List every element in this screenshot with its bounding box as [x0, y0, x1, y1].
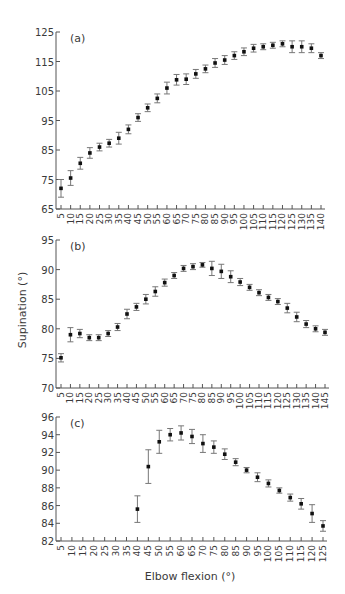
x-tick-label: 20 — [89, 545, 99, 557]
y-tick-label: 95 — [41, 235, 54, 246]
y-tick-label: 125 — [35, 27, 54, 38]
data-point — [58, 180, 64, 198]
x-tick-label: 70 — [198, 545, 208, 557]
data-point — [86, 335, 92, 341]
data-point — [318, 53, 324, 59]
data-point — [255, 473, 261, 482]
x-tick-label: 100 — [239, 213, 249, 230]
x-tick-label: 130 — [297, 213, 307, 230]
data-point — [143, 294, 149, 303]
data-point — [265, 480, 271, 487]
x-tick-label: 25 — [95, 213, 105, 224]
data-point — [77, 157, 83, 169]
data-point — [171, 273, 177, 279]
data-point — [125, 125, 131, 134]
x-tick-label: 65 — [172, 213, 182, 224]
data-point — [145, 450, 151, 484]
x-tick-label: 125 — [318, 545, 328, 562]
x-tick-label: 60 — [162, 213, 172, 225]
data-point — [251, 44, 257, 52]
data-point — [77, 329, 83, 337]
panel-label: (a) — [70, 32, 85, 45]
y-tick-label: 75 — [41, 175, 54, 186]
y-tick-label: 70 — [41, 383, 54, 394]
data-point — [178, 426, 184, 440]
data-point — [67, 328, 73, 342]
x-tick-label: 10 — [66, 213, 76, 225]
data-point — [222, 449, 228, 460]
y-tick-label: 92 — [41, 447, 54, 458]
data-point — [133, 303, 139, 310]
x-tick-label: 55 — [152, 213, 162, 224]
data-point — [287, 494, 293, 501]
data-point — [152, 287, 158, 296]
data-point — [308, 44, 314, 53]
data-point — [294, 312, 300, 321]
data-point — [134, 496, 140, 523]
data-point — [156, 430, 162, 453]
data-point — [209, 261, 215, 275]
x-tick-label: 30 — [111, 545, 121, 557]
data-point — [276, 488, 282, 493]
x-tick-label: 45 — [133, 213, 143, 224]
x-tick-label: 100 — [263, 545, 273, 562]
data-point — [124, 309, 130, 318]
y-tick-label: 115 — [35, 57, 54, 68]
x-tick-label: 45 — [143, 545, 153, 556]
x-tick-label: 30 — [104, 213, 114, 225]
x-tick-label: 25 — [100, 545, 110, 556]
x-tick-label: 70 — [181, 213, 191, 225]
data-point — [154, 94, 160, 103]
x-tick-label: 120 — [307, 545, 317, 562]
x-tick-label: 20 — [85, 213, 95, 225]
x-tick-label: 105 — [274, 545, 284, 562]
x-tick-label: 40 — [123, 213, 133, 225]
data-point — [233, 459, 239, 466]
data-point — [58, 354, 64, 362]
y-tick-label: 90 — [41, 265, 54, 276]
panel-b: 7075808590955101520253035404550556065707… — [41, 235, 330, 409]
data-point — [164, 82, 170, 94]
data-point — [303, 321, 309, 328]
x-tick-label: 135 — [306, 213, 316, 230]
y-tick-label: 96 — [41, 412, 54, 423]
data-point — [241, 48, 247, 56]
data-point — [96, 335, 102, 341]
y-tick-label: 75 — [41, 353, 54, 364]
x-tick-label: 90 — [242, 545, 252, 557]
data-point — [256, 290, 262, 296]
data-point — [174, 74, 180, 85]
x-tick-label: 85 — [210, 213, 220, 224]
x-tick-label: 10 — [67, 545, 77, 557]
x-tick-label: 140 — [316, 213, 326, 230]
data-point — [260, 44, 266, 50]
data-point — [320, 521, 326, 532]
data-point — [181, 265, 187, 271]
data-point — [309, 505, 315, 523]
x-tick-label: 90 — [220, 213, 230, 225]
data-point — [247, 284, 253, 290]
data-point — [313, 326, 319, 332]
data-point — [135, 114, 141, 122]
x-tick-label: 35 — [114, 213, 124, 224]
data-point — [183, 74, 189, 85]
x-tick-label: 60 — [176, 545, 186, 557]
data-point — [222, 56, 228, 65]
data-point — [244, 467, 250, 472]
x-tick-label: 15 — [78, 545, 88, 556]
y-tick-label: 82 — [41, 536, 54, 547]
data-point — [106, 139, 112, 147]
y-tick-label: 95 — [41, 116, 54, 127]
x-tick-label: 75 — [209, 545, 219, 556]
data-point — [284, 303, 290, 312]
y-tick-label: 85 — [41, 145, 54, 156]
y-tick-label: 86 — [41, 501, 54, 512]
data-point — [231, 52, 237, 60]
data-point — [200, 435, 206, 453]
panel-label: (b) — [70, 240, 86, 253]
data-point — [228, 271, 234, 283]
panel-c: 8284868890929496510152025303540455055606… — [41, 412, 328, 562]
panel-label: (c) — [70, 417, 85, 430]
data-point — [298, 498, 304, 509]
x-tick-label: 95 — [229, 213, 239, 224]
